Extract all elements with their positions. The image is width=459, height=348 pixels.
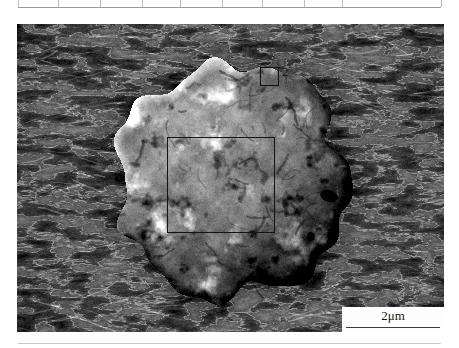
table-grid-remnant [0, 0, 459, 12]
table-tick-9 [441, 0, 442, 7]
scale-bar-line [346, 327, 440, 328]
roi-rectangle-small [260, 67, 279, 86]
page-bottom-rule [18, 343, 441, 344]
table-tick-0 [18, 0, 19, 7]
roi-rectangle-large [167, 137, 275, 233]
table-tick-3 [142, 0, 143, 7]
table-tick-2 [100, 0, 101, 7]
table-tick-1 [58, 0, 59, 7]
table-tick-6 [262, 0, 263, 7]
page-canvas: 2 2μm [0, 0, 459, 348]
scale-bar: 2μm [342, 307, 444, 332]
table-horizontal-rule [18, 7, 441, 8]
table-tick-5 [222, 0, 223, 7]
scale-bar-label: 2μm [342, 308, 444, 324]
table-tick-4 [180, 0, 181, 7]
sem-micrograph-figure: 2 2μm [17, 24, 444, 332]
roi-label-2: 2 [282, 65, 289, 78]
table-tick-7 [304, 0, 305, 7]
table-tick-8 [342, 0, 343, 7]
